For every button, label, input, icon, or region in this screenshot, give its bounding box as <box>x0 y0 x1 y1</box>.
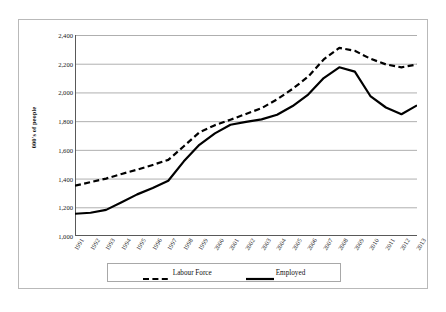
y-axis-tick-label: 1,600 <box>41 146 73 153</box>
y-axis-tick-label: 1,200 <box>41 204 73 211</box>
legend-label: Labour Force <box>173 269 212 277</box>
x-axis-tick-label: 2008 <box>337 237 350 251</box>
y-axis-tick-labels: 1,0001,2001,4001,6001,8002,0002,2002,400 <box>41 35 73 236</box>
legend-label: Employed <box>276 269 306 277</box>
x-axis-tick-label: 2011 <box>383 237 395 251</box>
x-axis-tick-label: 1991 <box>72 237 85 251</box>
legend-entries: Labour ForceEmployed <box>108 264 340 281</box>
x-axis-tick-label: 2006 <box>305 237 318 251</box>
series-line-employed <box>75 67 417 213</box>
chart-area: 000's of people 1,0001,2001,4001,6001,80… <box>19 20 429 290</box>
x-axis-tick-label: 1994 <box>119 237 132 251</box>
y-axis-tick-label: 1,000 <box>41 233 73 240</box>
x-axis-tick-label: 2003 <box>259 237 272 251</box>
y-axis-tick-label: 2,200 <box>41 60 73 67</box>
x-axis-tick-label: 1992 <box>88 237 101 251</box>
x-axis-tick-label: 2010 <box>368 237 381 251</box>
y-axis-tick-label: 1,800 <box>41 118 73 125</box>
x-axis-tick-label: 1993 <box>103 237 116 251</box>
series-line-labour-force <box>75 48 417 186</box>
x-axis-tick-label: 1997 <box>166 237 179 251</box>
x-axis-tick-label: 2007 <box>321 237 334 251</box>
legend-swatch-dashed-line-icon <box>143 269 171 277</box>
legend-item-employed[interactable]: Employed <box>246 269 306 277</box>
x-axis-tick-label: 2009 <box>352 237 365 251</box>
figure-frame: 000's of people 1,0001,2001,4001,6001,80… <box>18 19 428 289</box>
x-axis-tick-label: 1996 <box>150 237 163 251</box>
x-axis-tick-label: 2005 <box>290 237 303 251</box>
x-axis-tick-label: 2002 <box>243 237 256 251</box>
y-axis-tick-label: 1,400 <box>41 175 73 182</box>
x-axis-tick-label: 2001 <box>228 237 241 251</box>
x-axis-tick-label: 2000 <box>212 237 225 251</box>
legend: Labour ForceEmployed <box>107 263 341 282</box>
legend-swatch-solid-line-icon <box>246 269 274 277</box>
line-chart-svg <box>75 35 417 236</box>
x-axis-tick-label: 2012 <box>399 237 412 251</box>
legend-item-labour-force[interactable]: Labour Force <box>143 269 212 277</box>
x-axis-tick-label: 2013 <box>414 237 427 251</box>
x-axis-tick-label: 1995 <box>134 237 147 251</box>
y-axis-tick-label: 2,000 <box>41 89 73 96</box>
x-axis-tick-label: 2004 <box>274 237 287 251</box>
data-series <box>75 48 417 214</box>
y-axis-title: 000's of people <box>30 80 37 176</box>
x-axis-tick-label: 1998 <box>181 237 194 251</box>
y-axis-tick-label: 2,400 <box>41 32 73 39</box>
plot-area <box>75 35 417 236</box>
x-axis-tick-label: 1999 <box>197 237 210 251</box>
